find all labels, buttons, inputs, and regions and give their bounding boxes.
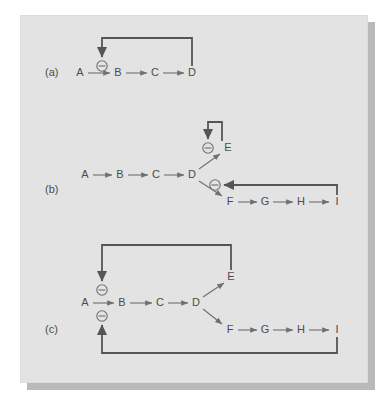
node-c-D: D [192,296,200,308]
node-c-E: E [227,270,234,282]
node-c-F: F [227,323,234,335]
node-a-D: D [188,66,196,78]
node-a-A: A [76,66,84,78]
feedback-b-I-to-minus [224,185,337,195]
edge-c-D-to-E [203,283,224,297]
node-b-G: G [261,195,270,207]
node-b-F: F [227,195,234,207]
panel-a-label: (a) [45,66,58,78]
node-c-C: C [156,296,164,308]
minus-circle-icon-c2 [97,311,107,321]
node-b-A: A [81,168,89,180]
node-c-B: B [118,296,125,308]
node-b-C: C [152,168,160,180]
minus-circle-icon-a1 [97,61,107,71]
diagram-canvas: (a) A B C D (b) [0,0,386,406]
panel-a-group: (a) A B C D [45,38,196,78]
feedback-a-D-to-minus [102,38,192,66]
node-b-I: I [335,195,338,207]
panel-b-group: (b) A B C D E F G [45,122,339,207]
panel-c-label: (c) [45,323,58,335]
feedback-c-E-to-minus [102,245,231,281]
node-c-H: H [297,323,305,335]
node-c-G: G [261,323,270,335]
edge-c-D-to-F [203,309,222,324]
edge-b-D-to-E [199,154,220,169]
minus-circle-icon-b1 [203,143,213,153]
node-b-E: E [224,141,231,153]
node-c-A: A [81,296,89,308]
node-b-B: B [116,168,123,180]
node-a-C: C [151,66,159,78]
node-b-H: H [297,195,305,207]
figure-root: (a) A B C D (b) [0,0,386,406]
minus-circle-icon-c1 [97,285,107,295]
node-b-D: D [188,168,196,180]
node-c-I: I [335,323,338,335]
node-a-B: B [114,66,121,78]
feedback-b-E-to-minus [208,122,222,141]
panel-c-group: (c) A B C D E F G [45,245,339,353]
panel-b-label: (b) [45,183,58,195]
minus-circle-icon-b2 [210,180,220,190]
